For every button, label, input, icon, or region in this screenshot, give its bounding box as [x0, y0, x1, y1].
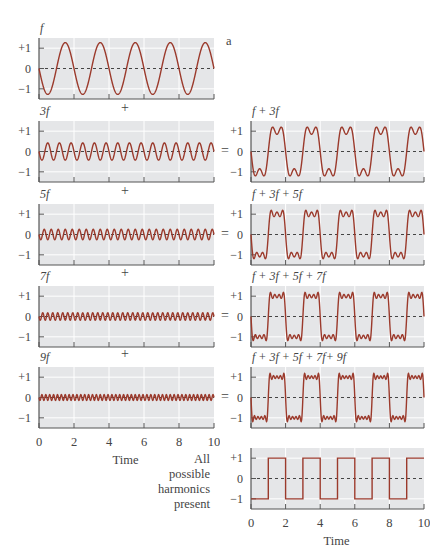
plot-title-label: f + 3f + 5f [252, 187, 302, 202]
y-tick-label: 0 [25, 391, 31, 405]
x-tick-label: 10 [208, 435, 220, 449]
side-label-line: harmonics [150, 482, 210, 497]
y-tick-label: 0 [237, 472, 243, 486]
y-tick-label: +1 [18, 124, 31, 138]
y-tick-label: +1 [230, 207, 243, 221]
x-tick-label: 6 [352, 516, 358, 530]
x-tick-label: 8 [176, 435, 182, 449]
y-tick-label: +1 [18, 207, 31, 221]
y-tick-label: −1 [18, 411, 31, 425]
y-tick-label: +1 [230, 370, 243, 384]
y-tick-label: +1 [230, 124, 243, 138]
y-tick-label: +1 [18, 41, 31, 55]
plot-title-label: f + 3f + 5f + 7f+ 9f [252, 350, 346, 365]
y-tick-label: −1 [18, 82, 31, 96]
plot-title-label: 3f [40, 104, 49, 119]
side-label-line: All [150, 452, 210, 467]
y-tick-label: −1 [230, 492, 243, 506]
all-harmonics-label: Allpossibleharmonicspresent [150, 452, 210, 512]
y-tick-label: −1 [18, 248, 31, 262]
y-tick-label: −1 [18, 165, 31, 179]
y-tick-label: +1 [18, 289, 31, 303]
y-tick-label: +1 [230, 289, 243, 303]
x-axis-label: Time [113, 453, 139, 468]
plot-square: +10−10246810 [221, 448, 430, 539]
side-label-line: present [150, 497, 210, 512]
plot-title-label: f [40, 21, 43, 36]
x-tick-label: 2 [71, 435, 77, 449]
y-tick-label: −1 [230, 330, 243, 344]
plot-title-label: f + 3f [252, 104, 279, 119]
y-tick-label: 0 [25, 145, 31, 159]
plot-title-label: 5f [40, 187, 49, 202]
x-tick-label: 0 [36, 435, 42, 449]
plot-f-plus-3f-plus-5f-plus-7f-plus-9f: +10−1 [221, 367, 430, 458]
x-tick-label: 0 [248, 516, 254, 530]
plus-sign: + [121, 265, 129, 281]
plot-title-label: f + 3f + 5f + 7f [252, 269, 326, 284]
plot-title-label: 7f [40, 269, 49, 284]
equals-sign: = [221, 143, 229, 159]
side-label-line: possible [150, 467, 210, 482]
y-tick-label: −1 [18, 330, 31, 344]
x-axis-label: Time [324, 534, 350, 549]
x-tick-label: 8 [386, 516, 392, 530]
y-tick-label: 0 [237, 145, 243, 159]
y-tick-label: +1 [18, 370, 31, 384]
y-tick-label: −1 [230, 165, 243, 179]
plot-9f: +10−10246810 [9, 367, 220, 458]
y-tick-label: 0 [237, 310, 243, 324]
y-tick-label: 0 [25, 228, 31, 242]
y-tick-label: −1 [230, 248, 243, 262]
y-tick-label: 0 [237, 228, 243, 242]
plus-sign: + [121, 346, 129, 362]
y-tick-label: 0 [237, 391, 243, 405]
plus-sign: + [121, 183, 129, 199]
equals-sign: = [221, 389, 229, 405]
x-tick-label: 2 [282, 516, 288, 530]
equals-sign: = [221, 226, 229, 242]
plus-sign: + [121, 100, 129, 116]
x-tick-label: 10 [418, 516, 430, 530]
equals-sign: = [221, 308, 229, 324]
y-tick-label: +1 [230, 451, 243, 465]
plot-title-label: 9f [40, 350, 49, 365]
x-tick-label: 6 [141, 435, 147, 449]
y-tick-label: 0 [25, 62, 31, 76]
panel-letter: a [226, 34, 232, 49]
x-tick-label: 4 [317, 516, 324, 530]
x-tick-label: 4 [106, 435, 113, 449]
y-tick-label: 0 [25, 310, 31, 324]
y-tick-label: −1 [230, 411, 243, 425]
